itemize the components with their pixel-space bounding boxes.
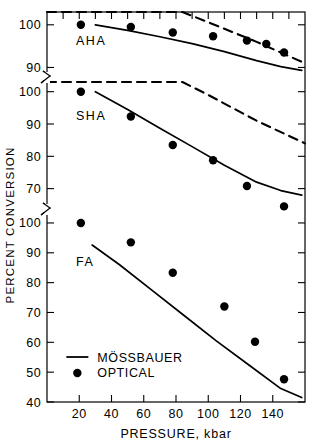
x-axis-title: PRESSURE, kbar xyxy=(120,427,231,441)
data-point xyxy=(169,28,177,36)
y-tick-label: 90 xyxy=(26,118,41,132)
mossbauer-curve xyxy=(95,92,301,195)
panel-label-fa: FA xyxy=(76,255,94,269)
plot-frame xyxy=(47,12,305,402)
data-point xyxy=(169,269,177,277)
y-tick-label: 60 xyxy=(26,336,41,350)
x-tick-label: 140 xyxy=(262,407,284,421)
y-axis-title: PERCENT CONVERSION xyxy=(4,147,16,304)
data-point xyxy=(251,338,259,346)
panel-label-sha: SHA xyxy=(76,109,106,123)
x-tick-label: 40 xyxy=(104,407,119,421)
y-tick-label: 70 xyxy=(26,182,41,196)
y-tick-label: 100 xyxy=(19,216,41,230)
y-tick-label: 40 xyxy=(26,396,41,410)
data-point xyxy=(127,238,135,246)
x-tick-label: 20 xyxy=(72,407,87,421)
y-tick-label: 90 xyxy=(26,61,41,75)
x-tick-label: 60 xyxy=(136,407,151,421)
legend-label-optical: OPTICAL xyxy=(97,366,155,380)
x-tick-label: 80 xyxy=(169,407,184,421)
x-tick-label: 120 xyxy=(229,407,251,421)
y-tick-label: 100 xyxy=(19,18,41,32)
data-point xyxy=(280,375,288,383)
legend-circle-swatch xyxy=(73,369,81,377)
data-point xyxy=(209,32,217,40)
y-tick-label: 80 xyxy=(26,150,41,164)
y-tick-label: 90 xyxy=(26,246,41,260)
data-point xyxy=(220,302,228,310)
y-tick-label: 70 xyxy=(26,306,41,320)
y-tick-label: 100 xyxy=(19,85,41,99)
chart-canvas: 20406080100120140PRESSURE, kbarPERCENT C… xyxy=(0,0,315,447)
panel-label-aha: AHA xyxy=(76,34,106,48)
data-point xyxy=(77,87,85,95)
data-point xyxy=(243,182,251,190)
y-tick-label: 50 xyxy=(26,366,41,380)
figure-container: 20406080100120140PRESSURE, kbarPERCENT C… xyxy=(0,0,315,447)
data-point xyxy=(280,202,288,210)
data-point xyxy=(77,219,85,227)
data-point xyxy=(77,21,85,29)
data-point xyxy=(169,141,177,149)
y-tick-label: 80 xyxy=(26,276,41,290)
x-tick-label: 100 xyxy=(197,407,219,421)
legend-label-mossbauer: MÖSSBAUER xyxy=(97,351,182,365)
